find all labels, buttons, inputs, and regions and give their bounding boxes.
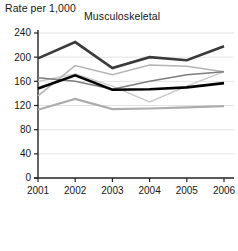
- data-series-group: [38, 42, 224, 110]
- y-tick-label: 120: [14, 100, 31, 111]
- x-tick-label: 2002: [64, 185, 87, 196]
- x-tick-label: 2006: [213, 185, 236, 196]
- y-tick-labels: 04080120160200240: [14, 27, 31, 183]
- x-tick-label: 2001: [27, 185, 50, 196]
- gridlines: [38, 33, 234, 154]
- series-line-series-5-pale-gray: [38, 99, 224, 110]
- chart-container: Rate per 1,000 Musculoskeletal 040801201…: [0, 0, 238, 251]
- series-line-series-1-dark: [38, 42, 224, 68]
- x-tick-label: 2003: [101, 185, 124, 196]
- y-tick-label: 160: [14, 76, 31, 87]
- y-tick-label: 200: [14, 52, 31, 63]
- y-tick-label: 40: [20, 148, 32, 159]
- x-tick-label: 2004: [138, 185, 161, 196]
- y-tick-label: 80: [20, 124, 32, 135]
- y-tick-label: 0: [25, 172, 31, 183]
- y-tick-label: 240: [14, 27, 31, 38]
- axis-lines: [34, 30, 234, 178]
- x-tick-label: 2005: [176, 185, 199, 196]
- x-tick-labels: 200120022003200420052006: [27, 185, 236, 196]
- line-chart-plot: 04080120160200240 2001200220032004200520…: [0, 0, 238, 251]
